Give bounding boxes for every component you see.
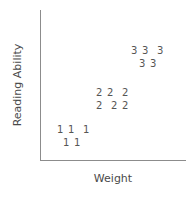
data-point-marker-group-1: 1: [63, 138, 69, 148]
data-point-marker-group-2: 2: [111, 101, 117, 111]
data-point-marker-group-2: 2: [107, 88, 113, 98]
y-axis-line: [40, 10, 41, 161]
data-point-marker-group-3: 3: [142, 46, 148, 56]
data-point-marker-group-3: 3: [139, 59, 145, 69]
data-point-marker-group-2: 2: [96, 101, 102, 111]
data-point-marker-group-2: 2: [122, 101, 128, 111]
scatter-plot-figure: Reading Ability Weight 1111122222233333: [0, 0, 196, 197]
x-axis-title: Weight: [40, 172, 186, 185]
x-axis-line: [40, 160, 186, 161]
data-point-marker-group-1: 1: [57, 125, 63, 135]
data-point-marker-group-2: 2: [122, 88, 128, 98]
data-point-marker-group-1: 1: [83, 125, 89, 135]
data-point-marker-group-3: 3: [131, 46, 137, 56]
data-point-marker-group-2: 2: [96, 88, 102, 98]
y-axis-title: Reading Ability: [10, 10, 26, 160]
data-point-marker-group-3: 3: [157, 46, 163, 56]
data-point-marker-group-1: 1: [68, 125, 74, 135]
data-point-marker-group-1: 1: [74, 138, 80, 148]
data-point-marker-group-3: 3: [150, 59, 156, 69]
